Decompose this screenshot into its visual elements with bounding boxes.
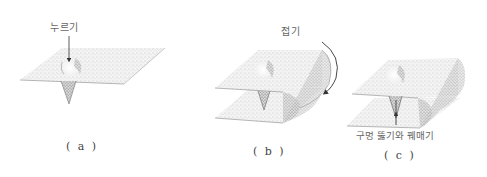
label-pressing: 누르기 (50, 19, 79, 34)
panel-c-pierced-sheet (347, 58, 465, 128)
caption-c: ( c ) (384, 149, 416, 162)
panel-b-folded-sheet (215, 42, 337, 123)
label-folding: 접기 (281, 23, 300, 38)
caption-a: ( a ) (66, 140, 98, 153)
caption-b: ( b ) (253, 145, 286, 158)
panel-a-sheet (20, 36, 165, 104)
label-drilling-sewing: 구멍 뚫기와 꿰매기 (356, 128, 434, 142)
diagram-figure: 누르기 접기 구멍 뚫기와 꿰매기 ( a ) ( b ) ( c ) (0, 0, 487, 177)
